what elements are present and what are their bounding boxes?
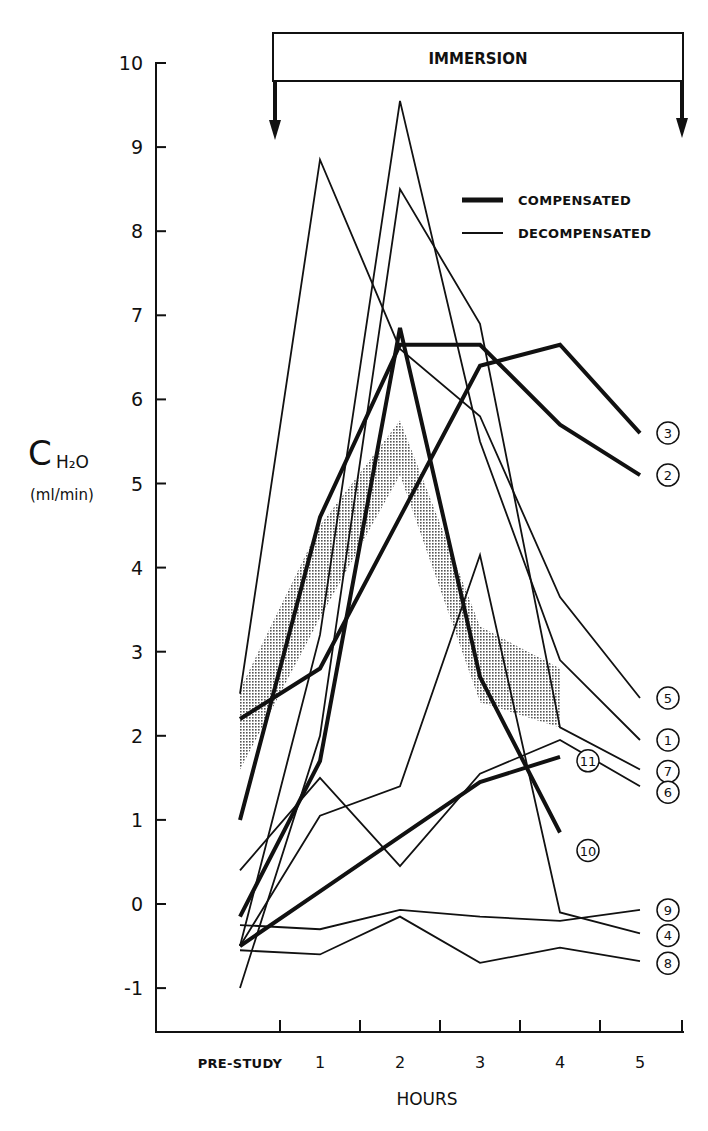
legend-label-decompensated: DECOMPENSATED	[518, 226, 651, 241]
subject-label-3: 3	[657, 422, 679, 444]
subject-label-6: 6	[657, 781, 679, 803]
y-tick-label: 7	[131, 304, 143, 326]
svg-text:7: 7	[664, 764, 672, 779]
subject-label-8: 8	[657, 952, 679, 974]
immersion-label: IMMERSION	[429, 50, 528, 68]
y-axis-unit: (ml/min)	[30, 486, 94, 504]
y-tick-label: -1	[124, 977, 143, 999]
immersion-banner: IMMERSION	[269, 33, 688, 140]
range-band	[240, 420, 560, 769]
x-tick-label: PRE-STUDY	[198, 1056, 283, 1071]
y-axis-ticks: -1012345678910	[119, 52, 166, 999]
subject-label-1: 1	[657, 729, 679, 751]
y-tick-label: 3	[131, 641, 143, 663]
svg-text:6: 6	[664, 785, 672, 800]
y-tick-label: 9	[131, 136, 143, 158]
svg-text:11: 11	[580, 754, 597, 769]
y-tick-label: 0	[131, 893, 143, 915]
y-tick-label: 6	[131, 388, 143, 410]
arrow-down-icon	[269, 81, 281, 140]
svg-text:2: 2	[664, 468, 672, 483]
series-line-8	[240, 917, 640, 963]
legend: COMPENSATED DECOMPENSATED	[462, 193, 651, 241]
y-axis-title: C H₂O (ml/min)	[28, 433, 94, 504]
svg-text:3: 3	[664, 426, 672, 441]
y-axis-subscript: H₂O	[56, 452, 89, 472]
x-tick-label: 5	[635, 1053, 645, 1072]
subject-labels: 3210115176948	[577, 422, 679, 974]
subject-label-10: 10	[577, 840, 599, 862]
y-tick-label: 8	[131, 220, 143, 242]
y-tick-label: 2	[131, 725, 143, 747]
subject-label-7: 7	[657, 760, 679, 782]
subject-label-11: 11	[577, 750, 599, 772]
y-tick-label: 5	[131, 473, 143, 495]
svg-text:1: 1	[664, 733, 672, 748]
y-tick-label: 1	[131, 809, 143, 831]
x-tick-label: 1	[315, 1053, 325, 1072]
x-tick-label: 2	[395, 1053, 405, 1072]
arrow-down-icon	[676, 81, 688, 138]
svg-text:8: 8	[664, 956, 672, 971]
subject-label-2: 2	[657, 464, 679, 486]
svg-text:4: 4	[664, 928, 672, 943]
x-axis-title: HOURS	[396, 1089, 457, 1109]
subject-label-4: 4	[657, 924, 679, 946]
y-axis-symbol: C	[28, 433, 52, 473]
svg-text:10: 10	[580, 844, 597, 859]
x-tick-label: 3	[475, 1053, 485, 1072]
svg-text:5: 5	[664, 691, 672, 706]
x-axis-ticks: PRE-STUDY12345	[198, 1020, 682, 1072]
subject-label-5: 5	[657, 687, 679, 709]
chart-svg: IMMERSION -1012345678910 PRE-STUDY12345 …	[0, 0, 708, 1131]
svg-text:9: 9	[664, 903, 672, 918]
subject-label-9: 9	[657, 899, 679, 921]
series-line-9	[240, 910, 640, 929]
y-tick-label: 10	[119, 52, 143, 74]
y-tick-label: 4	[131, 557, 143, 579]
legend-label-compensated: COMPENSATED	[518, 193, 631, 208]
x-tick-label: 4	[555, 1053, 565, 1072]
